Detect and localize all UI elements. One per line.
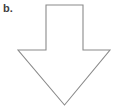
figure-panel: b. [0, 0, 122, 112]
down-arrow-outline-shape [18, 5, 110, 105]
down-arrow-icon [0, 0, 122, 112]
